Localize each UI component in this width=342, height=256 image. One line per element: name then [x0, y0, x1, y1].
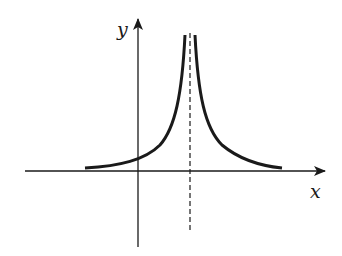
x-axis-label: x — [310, 180, 321, 202]
function-graph: y x — [0, 0, 342, 256]
curve-right-branch — [195, 35, 282, 168]
y-axis-label: y — [116, 18, 128, 40]
curve-left-branch — [85, 35, 185, 168]
